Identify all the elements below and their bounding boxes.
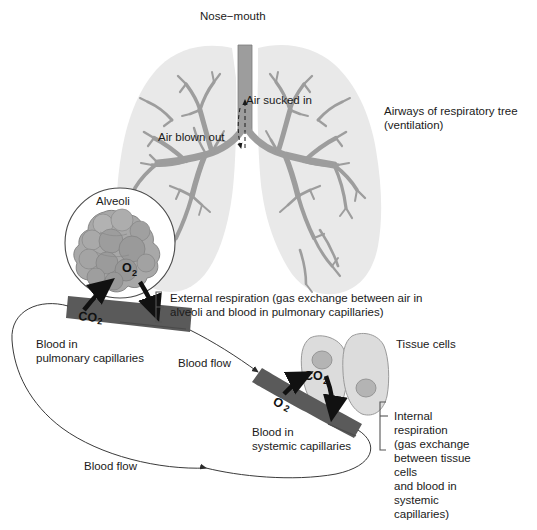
tissue-cell-right-nucleus [356,379,376,397]
external-respiration-line2: alveoli and blood in pulmonary capillari… [170,306,384,318]
blood-pulmonary-label-line1: Blood in [36,338,78,350]
air-blown-out-label: Air blown out [158,131,225,143]
internal-respiration-line-0: Internal [394,410,432,422]
alveoli-label: Alveoli [96,195,130,207]
tissue-cells-label: Tissue cells [396,338,456,350]
internal-respiration-line-2: (gas exchange [394,438,469,450]
tissue-cell-left-nucleus [312,351,332,369]
blood-flow-lower-label: Blood flow [84,460,138,472]
o2-alveoli-label: O [122,261,132,275]
internal-respiration-line-6: systemic [394,494,439,506]
o2-alveoli-subscript: 2 [132,268,137,278]
nose-mouth-label: Nose−mouth [200,10,266,22]
blood-flow-upper-label: Blood flow [178,357,232,369]
internal-respiration-line-4: cells [394,466,417,478]
respiration-diagram: O 2 Alveoli CO 2 Blood in pulmonary capi… [0,0,537,530]
internal-respiration-line-5: and blood in [394,480,457,492]
internal-respiration-line-7: capillaries) [394,508,449,520]
internal-respiration-line-1: respiration [394,424,448,436]
internal-respiration-line-3: between tissue [394,452,471,464]
co2-tissue-label: CO [304,369,323,383]
blood-pulmonary-label-line2: pulmonary capillaries [36,352,144,364]
co2-pulmonary-label: CO [78,309,98,325]
airways-label-line1: Airways of respiratory tree [384,105,518,117]
co2-tissue-subscript: 2 [323,376,328,386]
blood-systemic-label-line2: systemic capillaries [252,440,351,452]
co2-pulmonary-subscript: 2 [97,316,103,326]
blood-systemic-label-line1: Blood in [252,426,294,438]
external-respiration-line1: External respiration (gas exchange betwe… [170,292,423,304]
airways-label-line2: (ventilation) [384,119,444,131]
air-sucked-in-label: Air sucked in [246,94,312,106]
